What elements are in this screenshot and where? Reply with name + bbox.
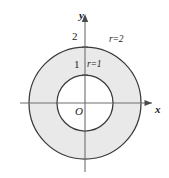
y-tick-label-1: 1 (74, 59, 80, 70)
outer-circle-label: r=2 (109, 35, 123, 45)
annulus-diagram-canvas (0, 0, 169, 178)
x-axis-arrow-icon (145, 100, 153, 106)
annulus-figure: y x O 2 1 r=2 r=1 (0, 0, 169, 178)
x-axis-label: x (155, 104, 161, 115)
inner-circle-label: r=1 (87, 60, 101, 70)
origin-label: O (75, 106, 83, 117)
y-tick-label-2: 2 (72, 31, 78, 42)
y-axis-label: y (79, 10, 84, 21)
